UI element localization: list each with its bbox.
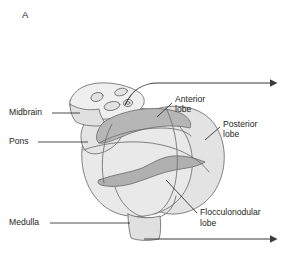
label-flocculonodular-lobe-line2: lobe: [200, 218, 216, 228]
label-anterior-lobe-line1: Anterior: [175, 94, 205, 104]
label-anterior-lobe-line2: lobe: [175, 104, 191, 114]
inferior-direction-arrow: [144, 235, 278, 243]
cerebellum-diagram: A Midbrain Pons Medulla Anterior lobe Po…: [0, 0, 281, 255]
label-flocculonodular-lobe-line1: Flocculonodular: [200, 207, 261, 217]
label-midbrain: Midbrain: [9, 107, 42, 117]
anatomy-figure-panel: A Midbrain Pons Medulla Anterior lobe Po…: [0, 0, 281, 255]
label-pons: Pons: [9, 136, 29, 146]
medulla-shape: [128, 214, 161, 240]
label-posterior-lobe-line2: lobe: [223, 129, 239, 139]
label-medulla: Medulla: [9, 217, 39, 227]
label-posterior-lobe-line1: Posterior: [223, 119, 258, 129]
panel-letter: A: [22, 9, 29, 20]
